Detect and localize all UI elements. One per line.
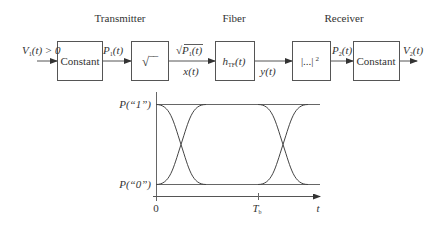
block-fiber-response: hTF(t) <box>216 42 255 81</box>
sqrt-icon: √‾‾ <box>142 54 158 69</box>
section-title-receiver: Receiver <box>324 12 363 24</box>
signal-p1-label: P1(t) <box>102 44 123 57</box>
signal-x-label: x(t) <box>182 65 199 78</box>
block-label: Constant <box>356 55 395 67</box>
signal-output-label: V2(t) <box>403 44 423 57</box>
signal-p2-label: P2(t) <box>331 44 352 57</box>
signal-sqrt-p1-label: √P1(t) <box>176 44 203 57</box>
optical-link-diagram: Transmitter Fiber Receiver Constant √‾‾ … <box>0 0 439 226</box>
eye-rising-transition-2 <box>258 105 308 185</box>
eye-diagram: P(“1”) P(“0”) 0 Tb t <box>118 92 320 215</box>
signal-y-label: y(t) <box>259 65 276 78</box>
time-axis-label: t <box>316 202 320 214</box>
block-sqrt: √‾‾ <box>132 42 169 81</box>
level-high-label: P(“1”) <box>118 98 151 111</box>
block-label: Constant <box>60 55 99 67</box>
block-rx-constant: Constant <box>354 42 400 81</box>
section-title-fiber: Fiber <box>222 12 246 24</box>
tick-label-tb: Tb <box>252 202 261 215</box>
block-tx-constant: Constant <box>58 42 103 81</box>
tick-label-zero: 0 <box>153 202 159 214</box>
signal-input-label: V1(t) > 0 <box>22 44 61 57</box>
level-low-label: P(“0”) <box>118 178 151 191</box>
svg-text:√P1(t): √P1(t) <box>176 44 203 57</box>
block-square-law: |...|2 <box>293 42 331 81</box>
block-label: hTF(t) <box>223 55 246 68</box>
eye-rising-transition-1 <box>156 105 206 185</box>
section-title-transmitter: Transmitter <box>95 12 146 24</box>
